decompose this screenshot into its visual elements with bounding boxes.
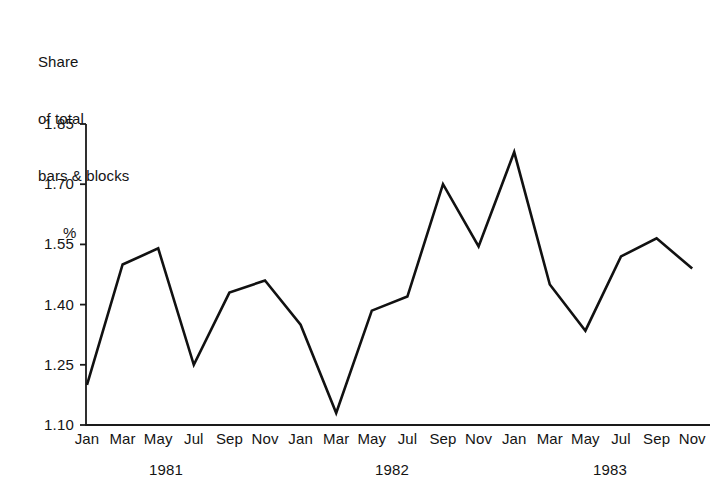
x-tick-label: Sep [430,430,457,447]
x-tick-label: Nov [465,430,492,447]
x-tick-label: Jan [75,430,100,447]
y-tick-label: 1.25 [28,356,74,373]
x-tick-label: Jul [611,430,630,447]
y-tick-label: 1.85 [28,115,74,132]
x-tick-label: Sep [216,430,243,447]
axes [80,124,710,425]
x-tick-label: Sep [643,430,670,447]
x-tick-label: Jul [398,430,417,447]
plot-area [0,0,728,502]
x-tick-label: Jan [502,430,527,447]
x-axis-year-label: 1981 [149,461,183,478]
x-tick-label: Nov [252,430,279,447]
x-axis-year-label: 1983 [593,461,627,478]
x-tick-label: May [144,430,173,447]
x-tick-label: Mar [110,430,136,447]
y-tick-label: 1.10 [28,416,74,433]
axis-lines [86,124,710,425]
y-tick-label: 1.55 [28,235,74,252]
data-series-line [87,152,692,413]
chart-container: Share of total bars & blocks % 1.851.701… [0,0,728,502]
x-tick-label: Mar [537,430,563,447]
x-tick-label: Jan [288,430,313,447]
y-tick-label: 1.70 [28,175,74,192]
x-tick-label: May [571,430,600,447]
x-tick-label: Nov [679,430,706,447]
x-tick-label: May [357,430,386,447]
x-tick-label: Mar [323,430,349,447]
x-axis-year-label: 1982 [375,461,409,478]
x-tick-label: Jul [184,430,203,447]
y-tick-label: 1.40 [28,296,74,313]
